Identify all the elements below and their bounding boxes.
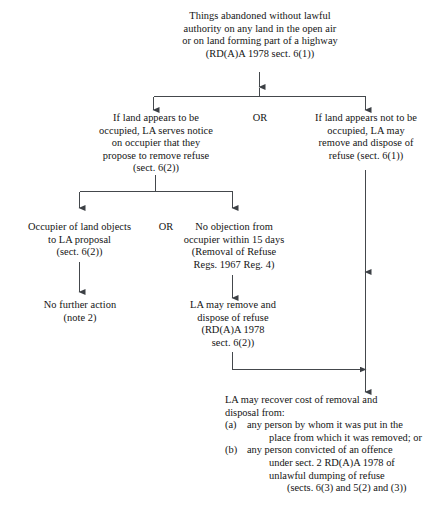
node-line: Regs. 1967 Reg. 4) (168, 259, 300, 272)
node-abandoned-things: Things abandoned without lawful authorit… (140, 10, 380, 60)
node-line: No further action (16, 299, 144, 312)
node-line: LA may remove and (172, 299, 294, 312)
node-line: (Removal of Refuse (168, 246, 300, 259)
node-line: remove and dispose of (297, 137, 435, 150)
node-line: (RD(A)A 1978 sect. 6(1)) (140, 48, 380, 61)
node-la-may-recover-cost: LA may recover cost of removal and dispo… (225, 394, 440, 495)
node-no-further-action: No further action (note 2) (16, 299, 144, 324)
node-line: propose to remove refuse (82, 150, 230, 163)
node-line: (sect. 6(2)) (8, 246, 151, 259)
node-line: or on land forming part of a highway (140, 35, 380, 48)
recover-item-text: any person by whom it was put in the (247, 419, 403, 430)
node-line: If land appears to be (82, 112, 230, 125)
node-line: on occupier that they (82, 137, 230, 150)
node-line: (note 2) (16, 312, 144, 325)
node-land-appears-occupied: If land appears to be occupied, LA serve… (82, 112, 230, 175)
node-line: (RD(A)A 1978 (172, 324, 294, 337)
node-line: Things abandoned without lawful (140, 10, 380, 23)
recover-item-text: any person convicted of an offence (247, 444, 393, 455)
node-line: sect. 6(2)) (172, 337, 294, 350)
node-line: authority on any land in the open air (140, 23, 380, 36)
node-line: occupied, LA may (297, 125, 435, 138)
node-no-objection: No objection from occupier within 15 day… (168, 221, 300, 271)
recover-item-b-cont: under sect. 2 RD(A)A 1978 of (225, 457, 440, 470)
node-line: refuse (sect. 6(1)) (297, 150, 435, 163)
recover-item-marker: (a) (225, 419, 247, 432)
node-line: (sect. 6(2)) (82, 162, 230, 175)
node-line: Occupier of land objects (8, 221, 151, 234)
node-la-may-remove-dispose: LA may remove and dispose of refuse (RD(… (172, 299, 294, 349)
node-land-appears-not-occupied: If land appears not to be occupied, LA m… (297, 112, 435, 162)
or-label-top: OR (232, 112, 288, 125)
recover-item-b: (b)any person convicted of an offence (225, 444, 440, 457)
recover-item-a: (a)any person by whom it was put in the (225, 419, 440, 432)
node-line: to LA proposal (8, 234, 151, 247)
node-line: dispose of refuse (172, 312, 294, 325)
node-occupier-objects: Occupier of land objects to LA proposal … (8, 221, 151, 259)
recover-item-marker: (b) (225, 444, 247, 457)
recover-footer: (sects. 6(3) and 5(2) and (3)) (225, 482, 440, 495)
recover-lead-line: disposal from: (225, 407, 440, 420)
node-line: If land appears not to be (297, 112, 435, 125)
recover-lead-line: LA may recover cost of removal and (225, 394, 440, 407)
node-line: occupier within 15 days (168, 234, 300, 247)
recover-item-b-cont: unlawful dumping of refuse (225, 470, 440, 483)
node-line: occupied, LA serves notice (82, 125, 230, 138)
recover-item-a-cont: place from which it was removed; or (225, 432, 440, 445)
node-line: No objection from (168, 221, 300, 234)
